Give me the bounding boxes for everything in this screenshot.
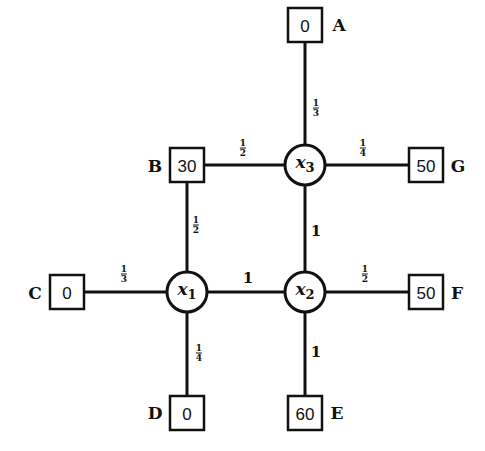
value-d: 0	[182, 406, 191, 423]
label-f: F	[451, 285, 463, 302]
value-f: 50	[417, 285, 436, 302]
weight-b-x1: 12	[193, 216, 199, 235]
weight-a-x3: 13	[313, 99, 319, 118]
value-e: 60	[296, 406, 315, 423]
value-a: 0	[300, 18, 309, 35]
variable-x3: x3	[295, 154, 314, 174]
weight-x2-f: 12	[362, 265, 368, 284]
label-e: E	[331, 405, 344, 422]
label-g: G	[451, 158, 466, 175]
label-c: C	[28, 285, 42, 302]
weight-x1-d: 14	[196, 344, 202, 363]
weight-x2-e: 1	[311, 345, 321, 360]
value-c: 0	[62, 285, 71, 302]
network-edges	[0, 0, 485, 451]
weight-c-x1: 13	[121, 265, 127, 284]
variable-x2: x2	[295, 281, 314, 301]
label-a: A	[332, 17, 345, 34]
value-b: 30	[178, 158, 197, 175]
label-d: D	[148, 405, 163, 422]
weight-b-x3: 12	[240, 139, 246, 158]
label-b: B	[148, 158, 162, 175]
weight-x1-x2: 1	[243, 271, 253, 286]
value-g: 50	[417, 158, 436, 175]
variable-x1: x1	[177, 281, 196, 301]
weight-x3-x2: 1	[311, 224, 321, 239]
weight-x3-g: 14	[360, 139, 366, 158]
